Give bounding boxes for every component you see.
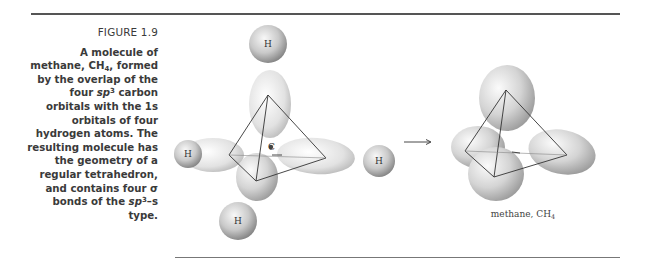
reaction-arrow-icon: [404, 140, 431, 145]
methane-name-label: methane, CH4: [478, 209, 568, 219]
svg-text:H: H: [264, 39, 272, 49]
svg-text:H: H: [375, 156, 383, 166]
sp3-orbitals-left: C: [182, 70, 356, 201]
hydrogen-atom-right: H: [363, 145, 395, 177]
bond-lobe-top: [479, 65, 535, 131]
methane-molecule: [451, 65, 600, 201]
hydrogen-atom-left: H: [174, 140, 202, 168]
orbital-lobe-top: [249, 70, 291, 138]
svg-text:H: H: [184, 149, 192, 159]
bottom-rule: [175, 257, 620, 258]
carbon-label: C: [268, 142, 275, 152]
hydrogen-atoms-left: H H H H: [174, 25, 395, 240]
hydrogen-atom-bottom: H: [219, 202, 257, 240]
bond-lobe-right: [524, 123, 600, 180]
methane-orbital-diagram: C H H H H: [0, 0, 647, 260]
svg-text:H: H: [234, 216, 242, 226]
bond-lobe-bottom: [468, 147, 524, 201]
hydrogen-atom-top: H: [249, 25, 287, 63]
